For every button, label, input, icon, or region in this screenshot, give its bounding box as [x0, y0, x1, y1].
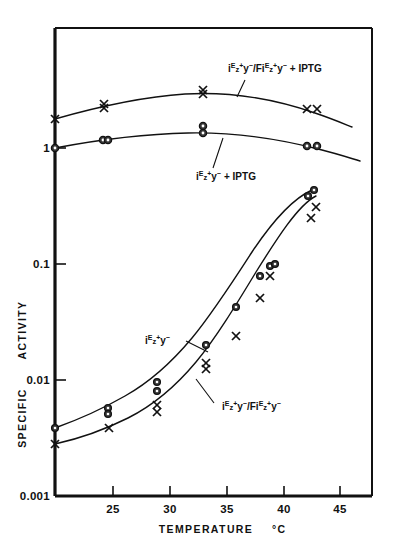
- leader-ratio: [196, 379, 214, 403]
- marker-x: [153, 401, 161, 409]
- figure-container: 1 0.1 0.01 0.001 25 30 35 40 45 TEMPERAT…: [0, 0, 396, 550]
- marker-circle: [257, 273, 264, 280]
- y-tick-label-0.01: 0.01: [26, 374, 50, 386]
- marker-circle: [154, 388, 161, 395]
- marker-circle: [154, 379, 161, 386]
- marker-circle: [233, 304, 240, 311]
- marker-circle: [203, 342, 210, 349]
- marker-circle: [199, 122, 206, 129]
- series-label-ratio: iEz+y−/FiEz+y−: [222, 400, 281, 412]
- marker-x: [312, 203, 320, 211]
- x-tick-label-35: 35: [220, 503, 234, 515]
- marker-x: [202, 365, 210, 373]
- leader-ratio-iptg: [237, 80, 245, 97]
- plot-frame: [55, 28, 372, 496]
- series-label-iez: iEz+y−: [145, 334, 170, 346]
- lbl4-minus2: −: [277, 400, 281, 407]
- lbl1-minus2: −: [283, 62, 287, 69]
- lbl4-slashF: /F: [247, 401, 256, 412]
- marker-circle: [303, 142, 310, 149]
- y-axis-title-word-activity: ACTIVITY: [16, 300, 28, 359]
- series-label-iptg: iEz+y−+ IPTG: [196, 170, 256, 182]
- marker-x: [266, 272, 274, 280]
- markers-ratio: [51, 203, 320, 448]
- marker-circle: [305, 193, 312, 200]
- markers-iez: [52, 187, 318, 432]
- y-tick-label-1: 1: [43, 142, 50, 154]
- markers-ratio-iptg: [51, 86, 321, 123]
- marker-x: [313, 105, 321, 113]
- marker-x: [232, 332, 240, 340]
- marker-x: [153, 408, 161, 416]
- marker-circle: [105, 411, 112, 418]
- series-label-ratio-iptg: iEz+y−/FiEz+y−+ IPTG: [228, 62, 322, 74]
- x-tick-label-45: 45: [333, 503, 347, 515]
- x-tick-label-40: 40: [277, 503, 290, 515]
- marker-circle: [199, 129, 206, 136]
- y-axis-title-word-specific: SPECIFIC: [16, 388, 28, 448]
- marker-circle: [311, 187, 318, 194]
- lbl2-minus: −: [217, 170, 221, 177]
- marker-circle: [104, 136, 111, 143]
- y-tick-label-0.1: 0.1: [33, 258, 50, 270]
- marker-circle: [51, 144, 58, 151]
- x-tick-label-30: 30: [163, 503, 176, 515]
- marker-x: [256, 294, 264, 302]
- marker-circle: [313, 142, 320, 149]
- markers-iptg: [51, 122, 320, 151]
- marker-circle: [52, 425, 59, 432]
- lbl3-minus: −: [166, 334, 170, 341]
- marker-x: [307, 214, 315, 222]
- leader-iptg: [213, 138, 223, 168]
- y-tick-label-0.001: 0.001: [20, 490, 51, 502]
- x-axis-unit: °C: [272, 523, 287, 535]
- x-axis-title: TEMPERATURE: [159, 523, 254, 535]
- lbl1-tail: + IPTG: [290, 63, 322, 74]
- lbl1-slashF: /F: [253, 63, 262, 74]
- curve-iez: [55, 190, 312, 428]
- lbl2-tail: + IPTG: [224, 171, 256, 182]
- x-tick-label-25: 25: [106, 503, 120, 515]
- marker-circle: [272, 261, 279, 268]
- specific-activity-vs-temperature-chart: 1 0.1 0.01 0.001 25 30 35 40 45 TEMPERAT…: [0, 0, 396, 550]
